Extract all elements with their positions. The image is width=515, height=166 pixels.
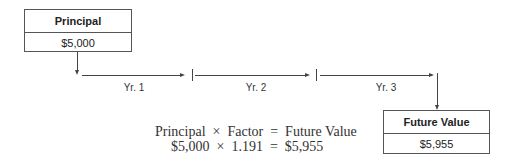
principal-down-line bbox=[77, 52, 78, 71]
tick-mark-2 bbox=[316, 69, 317, 81]
period-label-2: Yr. 2 bbox=[226, 82, 286, 93]
period-label-1: Yr. 1 bbox=[104, 82, 164, 93]
principal-value: $5,000 bbox=[25, 33, 131, 53]
timeline-segment-1 bbox=[82, 75, 180, 76]
future-down-line bbox=[437, 73, 438, 107]
period-label-3: Yr. 3 bbox=[356, 82, 416, 93]
future-value-title: Future Value bbox=[384, 111, 489, 134]
timeline-segment-3 bbox=[320, 75, 429, 76]
principal-down-arrowhead-icon bbox=[75, 70, 79, 75]
principal-title: Principal bbox=[25, 10, 131, 33]
tick-mark-1 bbox=[192, 69, 193, 81]
arrowhead-right-icon bbox=[180, 73, 185, 77]
timeline-segment-2 bbox=[195, 75, 306, 76]
future-value-value: $5,955 bbox=[384, 134, 489, 154]
arrowhead-right-icon bbox=[429, 73, 434, 77]
future-value-box: Future Value $5,955 bbox=[383, 110, 490, 154]
principal-box: Principal $5,000 bbox=[24, 9, 132, 52]
formula-line-1: Principal × Factor = Future Value bbox=[155, 124, 357, 139]
formula-line-2: $5,000 × 1.191 = $5,955 bbox=[171, 139, 323, 154]
arrowhead-right-icon bbox=[305, 73, 310, 77]
